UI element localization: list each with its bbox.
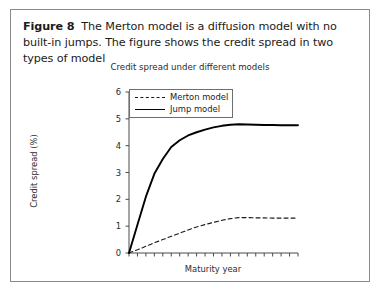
series-line-jump-model bbox=[129, 124, 298, 253]
legend-swatch-merton-icon bbox=[135, 97, 165, 98]
legend-label-merton: Merton model bbox=[170, 92, 228, 102]
y-tick-label: 5 bbox=[107, 115, 121, 123]
y-tick-label: 3 bbox=[107, 169, 121, 177]
y-tick-label: 0 bbox=[107, 249, 121, 257]
x-axis-ticks bbox=[129, 253, 298, 257]
figure-card: Figure 8 The Merton model is a diffusion… bbox=[10, 9, 370, 282]
legend-item-merton: Merton model bbox=[135, 92, 229, 104]
y-axis-label: Credit spread (%) bbox=[29, 106, 39, 236]
data-series bbox=[129, 124, 298, 253]
figure-caption-label: Figure 8 bbox=[23, 20, 74, 33]
chart-legend: Merton model Jump model bbox=[129, 89, 233, 118]
legend-label-jump: Jump model bbox=[170, 104, 220, 114]
y-tick-label: 2 bbox=[107, 195, 121, 203]
legend-swatch-jump-icon bbox=[135, 109, 165, 110]
legend-item-jump: Jump model bbox=[135, 104, 229, 116]
y-tick-label: 4 bbox=[107, 142, 121, 150]
y-tick-label: 6 bbox=[107, 88, 121, 96]
chart-area: Credit spread under different models 012… bbox=[11, 62, 369, 281]
series-line-merton-model bbox=[129, 218, 298, 253]
x-axis-label: Maturity year bbox=[129, 264, 297, 274]
plot-region: 0123456 Credit spread (%) Maturity year … bbox=[11, 62, 369, 281]
figure-caption: Figure 8 The Merton model is a diffusion… bbox=[23, 19, 359, 67]
y-tick-label: 1 bbox=[107, 222, 121, 230]
